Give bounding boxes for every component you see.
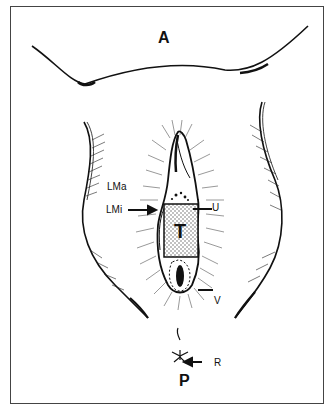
- posterior-label: P: [179, 373, 190, 389]
- right-thigh-contour: [235, 102, 282, 318]
- labia-majora-label: LMa: [107, 182, 126, 192]
- vaginal-opening: [169, 260, 190, 291]
- labia-minora-label: LMi: [106, 205, 122, 215]
- vagina-label: V: [214, 296, 221, 306]
- left-thigh-contour: [82, 122, 148, 318]
- anterior-label: A: [158, 30, 170, 46]
- rectum-label: R: [214, 358, 221, 368]
- anatomical-illustration: [0, 0, 330, 411]
- urethra-label: U: [212, 203, 219, 213]
- abdomen-contour: [32, 26, 308, 85]
- tumor-label: T: [174, 221, 186, 241]
- urethra-region: [171, 192, 189, 201]
- anus: [172, 328, 188, 363]
